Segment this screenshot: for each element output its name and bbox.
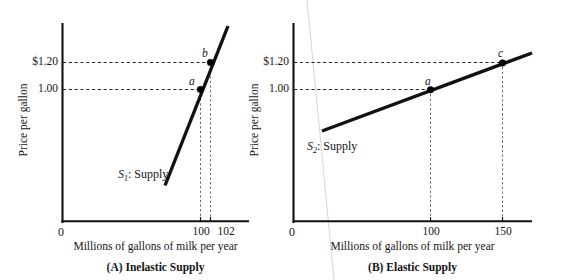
supply-curve-s1 (165, 26, 228, 186)
curve-label-s2-text: : Supply (317, 139, 357, 153)
x-axis-title-a: Millions of gallons of milk per year (48, 241, 263, 253)
data-point-a-panel-a (197, 86, 204, 93)
x-tick-label-100-b: 100 (417, 226, 445, 238)
y-axis-title-b: Price per gallon (249, 65, 261, 175)
panel-caption-a: (A) Inelastic Supply (48, 262, 263, 274)
point-label-b-panel-a: b (202, 48, 208, 60)
panel-elastic-supply: $1.20 1.00 Price per gallon 0 100 150 Mi… (285, 0, 569, 280)
x-tick-label-150-b: 150 (489, 226, 517, 238)
data-point-c-panel-b (499, 60, 506, 67)
point-label-a-panel-a: a (189, 76, 195, 88)
origin-label-a: 0 (58, 226, 64, 238)
point-label-c-panel-b: c (498, 48, 503, 60)
origin-label-b: 0 (289, 226, 295, 238)
data-point-b-panel-a (207, 59, 214, 66)
x-tick-label-102-a: 102 (212, 226, 240, 238)
panel-caption-b: (B) Elastic Supply (305, 262, 520, 274)
y-axis-title-a: Price per gallon (18, 65, 30, 175)
curve-label-s2: S2: Supply (307, 140, 357, 155)
panel-a-plot-area (0, 0, 285, 280)
curve-label-s1-text: : Supply (128, 167, 168, 181)
point-label-a-panel-b: a (425, 76, 431, 88)
x-tick-label-100-a: 100 (187, 226, 215, 238)
x-axis-title-b: Millions of gallons of milk per year (305, 241, 520, 253)
panel-inelastic-supply: $1.20 1.00 Price per gallon 0 100 102 Mi… (0, 0, 285, 280)
curve-label-s1: S1: Supply (118, 168, 168, 183)
supply-elasticity-figure: $1.20 1.00 Price per gallon 0 100 102 Mi… (0, 0, 569, 280)
